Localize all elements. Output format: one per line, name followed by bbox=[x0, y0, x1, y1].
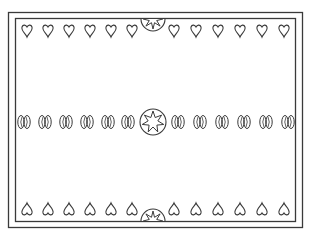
heart-icon bbox=[127, 25, 137, 37]
outer-border bbox=[9, 13, 303, 228]
inverted-heart-icon bbox=[127, 203, 137, 215]
bean-pair-icon bbox=[216, 116, 228, 129]
inverted-heart-icon bbox=[235, 203, 245, 215]
heart-icon bbox=[279, 25, 289, 37]
heart-icon bbox=[64, 25, 74, 37]
inverted-heart-icon bbox=[213, 203, 223, 215]
inverted-heart-icon bbox=[279, 203, 289, 215]
top-half-medallion-icon bbox=[141, 19, 165, 31]
inverted-heart-icon bbox=[22, 203, 32, 215]
bean-pair-icon bbox=[172, 116, 184, 129]
bean-pair-icon bbox=[194, 116, 206, 129]
heart-icon bbox=[106, 25, 116, 37]
heart-icon bbox=[257, 25, 267, 37]
heart-icon bbox=[169, 25, 179, 37]
inverted-heart-icon bbox=[169, 203, 179, 215]
heart-icon bbox=[213, 25, 223, 37]
bean-pair-icon bbox=[18, 116, 30, 129]
bean-pair-icon bbox=[60, 116, 72, 129]
bean-pair-icon bbox=[81, 116, 93, 129]
bean-pair-icon bbox=[282, 116, 294, 129]
bean-pair-icon bbox=[260, 116, 272, 129]
heart-icon bbox=[43, 25, 53, 37]
star-medallion-icon bbox=[140, 109, 166, 135]
bean-pair-icon bbox=[122, 116, 134, 129]
bean-pair-icon bbox=[102, 116, 114, 129]
inverted-heart-icon bbox=[64, 203, 74, 215]
inverted-heart-icon bbox=[43, 203, 53, 215]
inverted-heart-icon bbox=[85, 203, 95, 215]
inverted-heart-icon bbox=[106, 203, 116, 215]
heart-icon bbox=[191, 25, 201, 37]
inverted-heart-icon bbox=[191, 203, 201, 215]
heart-icon bbox=[235, 25, 245, 37]
decorative-border-artwork bbox=[0, 0, 316, 240]
heart-icon bbox=[85, 25, 95, 37]
heart-icon bbox=[22, 25, 32, 37]
inner-border bbox=[16, 19, 296, 222]
inverted-heart-icon bbox=[257, 203, 267, 215]
bottom-half-medallion-icon bbox=[141, 209, 165, 221]
bean-pair-icon bbox=[39, 116, 51, 129]
bean-pair-icon bbox=[238, 116, 250, 129]
